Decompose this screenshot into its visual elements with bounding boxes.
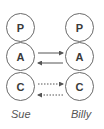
- transaction-arrows: [0, 0, 104, 129]
